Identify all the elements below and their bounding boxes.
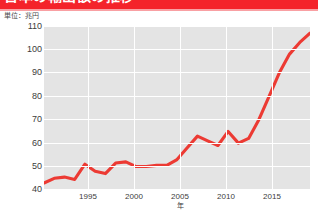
export-value-line — [44, 33, 310, 183]
y-tick-label: 70 — [2, 115, 42, 124]
chart-screenshot: 日本の輸出額の推移 単位：兆円 110 100 90 80 70 60 50 4… — [0, 0, 318, 218]
gridline-horizontal — [44, 119, 310, 120]
gridline-vertical — [272, 26, 273, 190]
x-tick-label: 2015 — [252, 192, 292, 201]
gridline-horizontal — [44, 49, 310, 50]
y-tick-label: 60 — [2, 139, 42, 148]
banner-bottom-edge — [0, 9, 318, 11]
y-tick-label: 40 — [2, 185, 42, 194]
gridline-vertical — [180, 26, 181, 190]
gridline-horizontal — [44, 189, 310, 190]
y-tick-label: 90 — [2, 68, 42, 77]
x-axis-name: 年 — [160, 202, 200, 210]
gridline-horizontal — [44, 166, 310, 167]
plot-area — [44, 26, 310, 190]
y-tick-label: 80 — [2, 92, 42, 101]
gridline-horizontal — [44, 143, 310, 144]
gridline-vertical — [134, 26, 135, 190]
x-tick-label: 2000 — [114, 192, 154, 201]
x-tick-label: 2005 — [160, 192, 200, 201]
gridline-horizontal — [44, 72, 310, 73]
header-banner: 日本の輸出額の推移 — [0, 0, 318, 9]
y-tick-label: 50 — [2, 162, 42, 171]
gridline-vertical — [226, 26, 227, 190]
gridline-vertical — [88, 26, 89, 190]
x-tick-label: 1995 — [68, 192, 108, 201]
y-axis-labels: 110 100 90 80 70 60 50 40 — [0, 0, 42, 218]
gridline-horizontal — [44, 26, 310, 27]
x-tick-label: 2010 — [206, 192, 246, 201]
y-tick-label: 110 — [2, 22, 42, 31]
y-tick-label: 100 — [2, 45, 42, 54]
gridline-horizontal — [44, 96, 310, 97]
